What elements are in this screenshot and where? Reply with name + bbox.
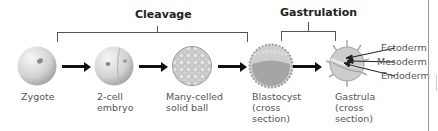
arrow-icon [218, 65, 242, 68]
arrow-icon [293, 65, 317, 68]
blastocyst-label: Blastocyst (cross section) [252, 91, 301, 124]
gastrula-label: Gastrula (cross section) [335, 91, 375, 124]
zygote-cell-icon [16, 45, 58, 87]
many-celled-ball-label: Many-celled solid ball [166, 91, 223, 113]
blastocyst-icon [248, 43, 294, 89]
two-cell-embryo-label: 2-cell embryo [97, 91, 133, 113]
ectoderm-label: Ectoderm [381, 42, 427, 53]
page-divider [428, 0, 429, 131]
edge-mark [436, 75, 437, 91]
zygote-label: Zygote [21, 91, 55, 102]
arrow-icon [62, 65, 86, 68]
cleavage-heading: Cleavage [135, 8, 192, 21]
gastrulation-heading: Gastrulation [280, 6, 357, 19]
arrow-icon [139, 65, 163, 68]
endoderm-label: Endoderm [381, 70, 430, 81]
many-celled-ball-icon [171, 45, 213, 87]
mesoderm-label: Mesoderm [377, 56, 427, 67]
two-cell-embryo-icon [93, 45, 135, 87]
